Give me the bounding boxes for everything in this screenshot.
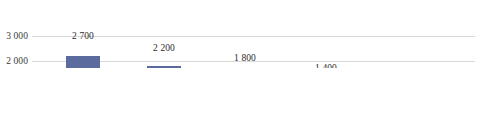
value-label-2016: 2 200 [137,44,191,54]
value-label-2018: 1 400 [299,64,353,68]
bar-2015[interactable] [66,56,100,68]
y-axis-tick-3000: 3 000 [0,32,28,42]
y-axis-tick-2000: 2 000 [0,57,28,67]
plot-area: 3 000 2 000 1 000 0 2 700 2 200 1 800 1 … [0,22,487,68]
value-label-2017: 1 800 [218,54,272,64]
bar-chart: 3 000 2 000 1 000 0 2 700 2 200 1 800 1 … [0,22,487,68]
bar-2016[interactable] [147,66,181,68]
value-label-2015: 2 700 [56,32,110,42]
